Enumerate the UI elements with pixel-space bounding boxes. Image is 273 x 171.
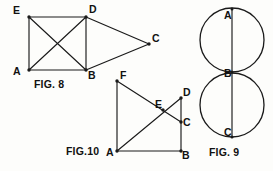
figure-sheet: E D A B C FIG. 8 F A B D C E FI — [0, 0, 273, 171]
fig8-vertex-D-dot — [84, 15, 87, 18]
fig9-point-label-B: B — [224, 67, 232, 79]
fig10-vertex-label-D: D — [183, 86, 191, 98]
fig8-vertex-label-E: E — [13, 4, 20, 16]
fig8-vertex-label-D: D — [89, 3, 97, 15]
fig8-vertex-E-dot — [27, 15, 30, 18]
fig9-caption: FIG. 9 — [209, 146, 239, 158]
fig10-vertex-label-F: F — [120, 69, 127, 81]
fig9-point-label-C: C — [224, 126, 232, 138]
fig10-caption: FIG.10 — [66, 145, 99, 157]
fig10-edge-A-D — [117, 98, 181, 151]
figure-fig9: A B C FIG. 9 — [200, 8, 264, 159]
fig8-edge-D-C — [86, 17, 149, 44]
fig8-caption: FIG. 8 — [34, 78, 64, 90]
fig8-vertex-label-B: B — [88, 69, 96, 81]
fig8-vertex-C-dot — [147, 42, 150, 45]
fig9-point-label-A: A — [224, 9, 232, 21]
fig8-edge-B-C — [86, 44, 149, 70]
fig10-vertex-A-dot — [115, 149, 118, 152]
figure-fig10: F A B D C E FIG.10 — [66, 69, 191, 161]
fig10-edge-F-C — [117, 81, 181, 122]
geometry-canvas: E D A B C FIG. 8 F A B D C E FI — [0, 0, 273, 171]
fig10-vertex-F-dot — [115, 79, 118, 82]
fig8-vertex-label-A: A — [13, 65, 21, 77]
fig10-vertex-label-E: E — [155, 98, 162, 110]
fig8-vertex-label-C: C — [152, 32, 160, 44]
fig8-vertex-A-dot — [27, 68, 30, 71]
figure-fig8: E D A B C FIG. 8 — [13, 3, 160, 90]
fig10-vertex-label-B: B — [182, 149, 190, 161]
fig10-vertex-label-C: C — [183, 116, 191, 128]
fig10-vertex-label-A: A — [106, 146, 114, 158]
